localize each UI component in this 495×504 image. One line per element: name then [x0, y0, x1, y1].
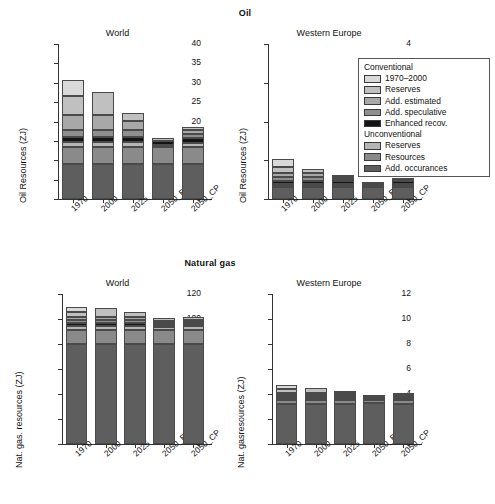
y-axis-tick — [54, 180, 58, 181]
legend-item[interactable]: Reserves — [364, 84, 485, 95]
legend-item[interactable]: Enhanced recov. — [364, 118, 485, 129]
bar-segment — [95, 317, 117, 321]
bar-segment — [152, 138, 174, 141]
legend-swatch-icon — [364, 153, 381, 161]
stacked-bar[interactable] — [152, 44, 174, 199]
legend-item[interactable]: Reserves — [364, 140, 485, 151]
bar-segment — [92, 147, 114, 164]
bar-segment — [153, 330, 175, 344]
stacked-bar[interactable] — [153, 294, 175, 444]
bar-segment — [362, 185, 384, 187]
bar-segment — [182, 130, 204, 133]
stacked-bar[interactable] — [334, 294, 356, 444]
bar-segment — [272, 159, 294, 166]
section-title-natural-gas: Natural gas — [150, 258, 270, 268]
bar-segment — [95, 326, 117, 330]
bar-segment — [272, 167, 294, 173]
legend-item-label: Resources — [385, 152, 425, 163]
legend-item[interactable]: 1970–2000 — [364, 73, 485, 84]
bar-segment — [95, 320, 117, 323]
stacked-bar[interactable] — [363, 294, 385, 444]
bar-segment — [272, 181, 294, 184]
bar-segment — [153, 318, 175, 321]
bar-segment — [153, 344, 175, 444]
y-axis — [268, 44, 269, 199]
y-axis-tick — [54, 83, 58, 84]
legend-group-conventional: Conventional 1970–2000ReservesAdd. estim… — [363, 62, 485, 129]
panel-oil-world: World Oil Resources (ZJ) 051015202530354… — [10, 28, 225, 253]
bar-segment — [334, 404, 356, 444]
bar-segment — [305, 388, 327, 393]
stacked-bar[interactable] — [302, 44, 324, 199]
bar-segment — [302, 177, 324, 180]
legend-items: 1970–2000ReservesAdd. estimatedAdd. spec… — [364, 73, 485, 129]
bar-segment — [272, 185, 294, 187]
bar-segment — [392, 185, 414, 187]
stacked-bar[interactable] — [393, 294, 415, 444]
y-axis-tick — [264, 44, 268, 45]
bar-segment — [183, 317, 205, 320]
panel-title: World — [10, 28, 225, 38]
legend-item-label: Add. estimated — [385, 96, 441, 107]
bar-segment — [305, 395, 327, 397]
bar-segment — [276, 404, 298, 444]
bar-segment — [272, 177, 294, 180]
stacked-bar[interactable] — [62, 44, 84, 199]
bar-segment — [153, 325, 175, 327]
bar-segment — [152, 147, 174, 164]
y-axis-tick — [54, 141, 58, 142]
stacked-bar[interactable] — [305, 294, 327, 444]
legend-item[interactable]: Add. speculative — [364, 107, 485, 118]
y-axis-tick — [264, 160, 268, 161]
bar-segment — [124, 312, 146, 317]
bar-segment — [124, 317, 146, 320]
bar-segment — [66, 307, 88, 312]
stacked-bar[interactable] — [182, 44, 204, 199]
legend-item[interactable]: Add. occurances — [364, 163, 485, 174]
legend-swatch-icon — [364, 86, 381, 94]
bar-segment — [152, 164, 174, 199]
y-axis-tick — [54, 199, 58, 200]
bar-segment — [332, 185, 354, 187]
legend-item-label: 1970–2000 — [385, 73, 427, 84]
bar-segment — [62, 130, 84, 137]
plot-area: 0246810121970200020252050_B2050_CP — [272, 294, 418, 444]
bar-segment — [276, 400, 298, 404]
bar-segment — [362, 182, 384, 184]
bar-segment — [363, 400, 385, 404]
bar-segment — [183, 326, 205, 330]
y-axis-tick — [264, 199, 268, 200]
y-axis — [62, 294, 63, 444]
y-axis — [272, 294, 273, 444]
stacked-bar[interactable] — [122, 44, 144, 199]
bar-segment — [62, 137, 84, 142]
legend-item[interactable]: Resources — [364, 152, 485, 163]
bar-segment — [124, 330, 146, 344]
stacked-bar[interactable] — [272, 44, 294, 199]
legend-item[interactable]: Add. estimated — [364, 96, 485, 107]
bar-segment — [92, 137, 114, 142]
bar-segment — [62, 147, 84, 164]
bar-segment — [122, 130, 144, 137]
stacked-bar[interactable] — [95, 294, 117, 444]
bar-segment — [276, 395, 298, 397]
stacked-bar[interactable] — [124, 294, 146, 444]
bar-segment — [276, 385, 298, 389]
bar-segment — [302, 173, 324, 177]
panel-gas-western-europe: Western Europe Nat. gasresources (ZJ) 02… — [232, 278, 482, 503]
bar-segment — [305, 400, 327, 404]
stacked-bar[interactable] — [92, 44, 114, 199]
bar-segment — [362, 187, 384, 199]
bar-segment — [302, 185, 324, 187]
stacked-bar[interactable] — [332, 44, 354, 199]
y-axis-tick — [54, 102, 58, 103]
y-axis-tick — [268, 419, 272, 420]
chart-legend: Conventional 1970–2000ReservesAdd. estim… — [358, 58, 490, 177]
stacked-bar[interactable] — [276, 294, 298, 444]
stacked-bar[interactable] — [66, 294, 88, 444]
bar-segment — [153, 321, 175, 323]
y-axis-tick — [54, 44, 58, 45]
bar-segment — [393, 400, 415, 404]
bar-segment — [153, 323, 175, 325]
stacked-bar[interactable] — [183, 294, 205, 444]
